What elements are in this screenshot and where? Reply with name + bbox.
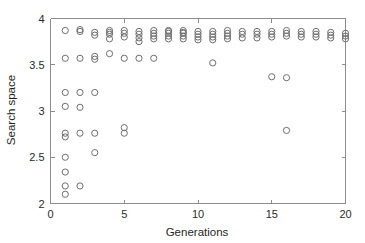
figure-container: 05101520 22.533.54 Generations Search sp…	[0, 0, 365, 243]
x-tick-label: 15	[266, 208, 278, 220]
y-tick-label: 2	[38, 198, 44, 210]
y-tick-label: 4	[38, 13, 44, 25]
x-tick-label: 0	[47, 208, 53, 220]
x-tick-label: 10	[192, 208, 204, 220]
x-tick-label: 20	[339, 208, 351, 220]
x-tick-label: 5	[121, 208, 127, 220]
y-tick-label: 3	[38, 105, 44, 117]
scatter-plot: 05101520 22.533.54 Generations Search sp…	[0, 0, 365, 243]
y-axis-label: Search space	[5, 75, 17, 145]
x-axis-label: Generations	[166, 226, 229, 238]
y-tick-label: 2.5	[29, 151, 44, 163]
y-tick-label: 3.5	[29, 59, 44, 71]
